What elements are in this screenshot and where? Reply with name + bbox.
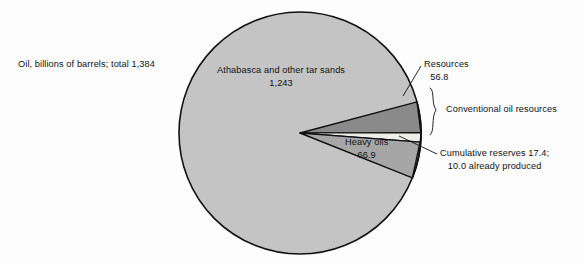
chart-caption: Oil, billions of barrels; total 1,384 (18, 58, 155, 71)
annotation-cumulative-line1: Cumulative reserves 17.4; (440, 147, 549, 160)
pie-chart-figure: Oil, billions of barrels; total 1,384 At… (0, 0, 584, 264)
pie-chart-canvas (0, 0, 584, 264)
slice-label-athabasca-name: Athabasca and other tar sands (217, 64, 345, 77)
annotation-resources-name: Resources (424, 58, 469, 71)
slice-label-athabasca-value: 1,243 (217, 77, 345, 90)
slice-label-heavy-oils-value: 66.9 (345, 149, 388, 162)
annotation-resources-value: 56.8 (424, 71, 469, 84)
slice-label-heavy-oils-name: Heavy oils (345, 136, 388, 149)
brace-conventional-oil-resources (430, 88, 436, 135)
annotation-conventional-oil-resources: Conventional oil resources (446, 103, 557, 116)
annotation-cumulative-reserves: Cumulative reserves 17.4; 10.0 already p… (440, 147, 549, 172)
annotation-cumulative-line2: 10.0 already produced (440, 160, 549, 173)
annotation-resources: Resources 56.8 (424, 58, 469, 83)
slice-label-athabasca-tar-sands: Athabasca and other tar sands 1,243 (217, 64, 345, 89)
slice-label-heavy-oils: Heavy oils 66.9 (345, 136, 388, 161)
